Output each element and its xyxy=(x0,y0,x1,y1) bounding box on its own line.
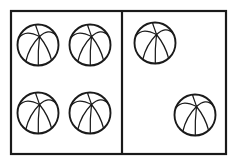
ball-grouping-diagram xyxy=(0,0,237,165)
ball-icon xyxy=(175,95,216,136)
ball-icon xyxy=(70,93,111,134)
ball-icon xyxy=(18,93,59,134)
ball-icon xyxy=(70,25,111,66)
ball-icon xyxy=(18,25,59,66)
figure-root: Two groups of balls separated by a verti… xyxy=(0,0,237,165)
ball-icon xyxy=(135,23,176,64)
